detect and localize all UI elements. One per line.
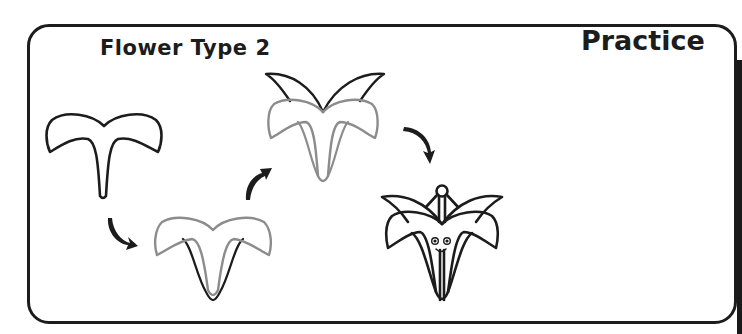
lily-stamen-knob — [437, 186, 448, 197]
arrow-step2-to-step3 — [246, 168, 272, 200]
step-4-finished-lily — [382, 186, 502, 301]
lily-pupil-left — [433, 239, 436, 242]
curved-arrow-down-right-icon — [403, 127, 435, 164]
arrow-step1-to-step2 — [108, 218, 138, 250]
step-2-flower — [155, 218, 271, 300]
step-3-flower — [266, 74, 384, 181]
curved-arrow-up-right-icon — [246, 168, 272, 200]
arrow-step3-to-step4 — [403, 127, 435, 164]
curved-arrow-down-right-icon — [108, 218, 138, 250]
lily-front-outline — [386, 212, 498, 299]
step-2-guide-outline — [155, 218, 271, 295]
step-1-flower-outline — [47, 114, 162, 198]
drawing-steps-illustration — [0, 0, 742, 334]
step-3-guide-outline — [268, 100, 377, 181]
lily-pupil-right — [445, 239, 448, 242]
